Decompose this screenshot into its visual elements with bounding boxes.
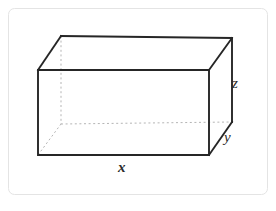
dimension-label-length-x: x xyxy=(118,160,126,175)
dimension-label-height-z: z xyxy=(232,76,238,91)
dimension-label-depth-y: y xyxy=(224,130,231,145)
rectangular-prism-figure xyxy=(0,0,276,211)
figure-root: z y x xyxy=(0,0,276,211)
